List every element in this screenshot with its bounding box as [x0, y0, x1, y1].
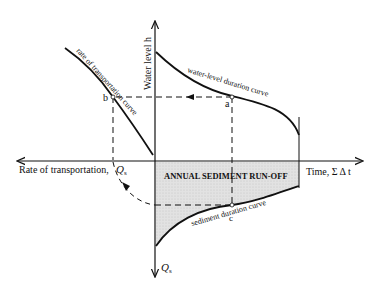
dashed-arc-arrow-head [122, 182, 130, 191]
water-level-duration-curve [156, 52, 299, 135]
sediment-rating-diagram: a b c Water level h Time, Σ Δ t Rate of … [0, 0, 380, 288]
dashed-arrow-head-ab [186, 94, 194, 100]
rate-of-transportation-curve [65, 48, 153, 155]
annual-sediment-runoff-label: ANNUAL SEDIMENT RUN-OFF [164, 171, 288, 181]
time-axis-label: Time, Σ Δ t [306, 166, 351, 177]
point-a [230, 95, 234, 99]
rate-axis-q: Q [116, 163, 124, 175]
point-b-label: b [103, 92, 108, 103]
rate-axis-q-sub: s [124, 169, 127, 177]
water-level-axis-label: Water level h [142, 37, 153, 90]
qs-axis-sub: s [169, 267, 172, 275]
qs-axis-label: Q [161, 261, 169, 273]
point-a-label: a [225, 98, 230, 109]
rate-axis-label: Rate of transportation, [19, 164, 109, 175]
transport-curve-label: rate of transportation curve [75, 46, 140, 117]
water-level-curve-label: water-level duration curve [186, 65, 270, 98]
